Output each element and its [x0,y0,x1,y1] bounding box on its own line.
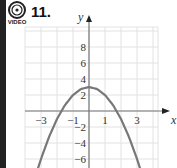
tick-labels: −3−1138642−2−4−6 [35,41,140,165]
y-axis-label: y [77,10,84,24]
y-tick-label: −4 [74,137,86,149]
y-axis-arrow [86,15,92,22]
chart: xy −3−1138642−2−4−6 [0,0,177,168]
x-tick-label: 1 [102,114,108,126]
x-tick-label: −3 [35,114,47,126]
y-tick-label: −6 [74,153,86,165]
y-tick-label: 6 [81,57,87,69]
y-tick-label: 2 [81,89,87,101]
y-tick-label: −2 [74,121,86,133]
x-tick-label: 3 [134,114,140,126]
y-tick-label: 8 [81,41,87,53]
y-tick-label: 4 [81,73,87,85]
x-axis-label: x [170,113,177,127]
axes: xy [25,10,177,168]
x-axis-arrow [162,108,170,114]
